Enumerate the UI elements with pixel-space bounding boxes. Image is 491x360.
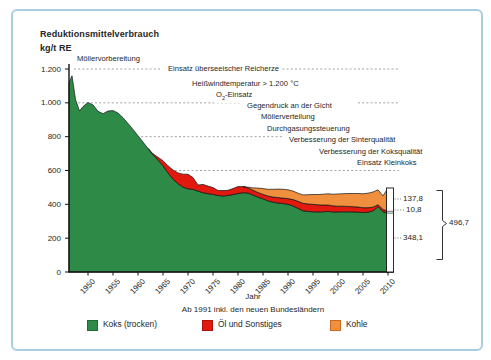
annotation: Einsatz überseeischer Reicherze	[166, 64, 281, 73]
annotation: Gegendruck an der Gicht	[245, 101, 334, 110]
annotation: Möllervorbereitung	[75, 54, 142, 63]
y-tick-label: 1.000	[27, 98, 61, 107]
annotation: Verbesserung der Sinterqualität	[287, 135, 397, 144]
legend-label-oel: Öl und Sonstiges	[218, 319, 282, 329]
annotation: Heißwindtemperatur > 1.200 °C	[190, 79, 301, 88]
area-koks	[69, 76, 388, 272]
annotation: Durchgasungssteuerung	[265, 124, 352, 133]
total-bracket	[437, 191, 447, 260]
annotation: Verbesserung der Koksqualität	[317, 147, 424, 156]
y-tick-label: 0	[27, 268, 61, 277]
y-tick-label: 200	[27, 234, 61, 243]
y-tick-label: 1.200	[27, 65, 61, 74]
y-tick-label: 800	[27, 132, 61, 141]
end-value-label: 496,7	[449, 218, 469, 227]
chart-card: Reduktionsmittelverbrauch kg/t RE 020040…	[11, 9, 483, 351]
legend-label-kohle: Kohle	[346, 319, 367, 329]
legend-swatch-kohle	[330, 320, 341, 331]
annotation: Einsatz Kleinkoks	[355, 158, 419, 167]
end-value-bar	[387, 188, 394, 272]
legend-swatch-oel	[202, 320, 213, 331]
subscript: 2	[222, 95, 225, 101]
y-tick-label: 400	[27, 200, 61, 209]
end-value-label: 348,1	[403, 233, 423, 242]
end-value-label: 10,8	[406, 205, 422, 214]
end-value-label: 137,8	[403, 194, 423, 203]
x-axis-title: Jahr	[203, 292, 303, 301]
legend-swatch-koks	[87, 320, 98, 331]
y-tick-label: 600	[27, 166, 61, 175]
legend-label-koks: Koks (trocken)	[103, 319, 157, 329]
annotation: Möllerverteilung	[259, 112, 317, 121]
x-axis-note: Ab 1991 inkl. den neuen Bundesländern	[103, 305, 403, 314]
